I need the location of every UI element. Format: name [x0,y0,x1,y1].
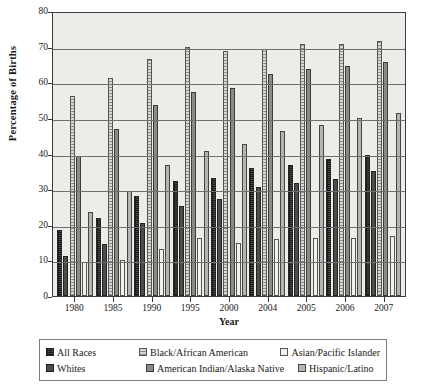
bar [351,238,356,296]
legend-label-asian-pacific-islander: Asian/Pacific Islander [291,347,380,358]
legend-item-all-races[interactable]: All Races [46,347,139,358]
bar [294,183,299,296]
x-tick-mark [345,297,346,302]
gridline [53,262,405,263]
bar [333,179,338,296]
bar [96,218,101,296]
bar [140,223,145,296]
y-axis-tick-80: 80 [22,7,48,16]
legend-item-hispanic-latino[interactable]: Hispanic/Latino [298,363,373,374]
bar-group-1980 [56,13,94,296]
legend-item-asian-pacific-islander[interactable]: Asian/Pacific Islander [280,347,380,358]
bar [390,236,395,296]
bar [396,113,401,296]
gridline [53,156,405,157]
bar [173,181,178,296]
legend-label-black-african-american: Black/African American [150,347,248,358]
bar [274,239,279,296]
chart-plot-area: Percentage of Births 01020304050607080 1… [0,0,426,330]
legend-item-whites[interactable]: Whites [46,363,146,374]
bar [102,244,107,296]
bar [319,125,324,296]
bar-group-1985 [94,13,132,296]
legend-label-american-indian-alaska-native: American Indian/Alaska Native [157,363,284,374]
legend-swatch-black-african-american-icon [139,348,147,356]
bar [223,51,228,296]
bar-group-2000 [210,13,248,296]
bar [191,92,196,296]
chart-legend: All Races Black/African American Asian/P… [39,339,387,381]
x-axis-tick-1995: 1995 [171,303,210,313]
bar-group-2005 [287,13,325,296]
y-axis-title: Percentage of Births [7,24,18,164]
y-tick-mark [48,190,52,191]
y-tick-mark [48,226,52,227]
bar [211,178,216,296]
bar-group-1995 [171,13,209,296]
legend-swatch-asian-pacific-islander-icon [280,348,288,356]
chart-page: Percentage of Births 01020304050607080 1… [0,0,426,391]
legend-swatch-hispanic-latino-icon [298,364,306,372]
bar [165,165,170,296]
y-tick-mark [48,155,52,156]
y-axis-tick-0: 0 [22,292,48,301]
bar [127,191,132,296]
bar [313,238,318,296]
gridline [53,120,405,121]
bar [300,44,305,296]
bar [377,41,382,296]
gridline [53,191,405,192]
y-tick-mark [48,119,52,120]
x-tick-mark [306,297,307,302]
bar [383,62,388,296]
bar [88,212,93,296]
bar [249,168,254,296]
bar [365,155,370,296]
y-tick-mark [48,261,52,262]
y-axis-tick-10: 10 [22,256,48,265]
legend-label-hispanic-latino: Hispanic/Latino [309,363,373,374]
legend-item-american-indian-alaska-native[interactable]: American Indian/Alaska Native [146,363,298,374]
legend-row-1: All Races Black/African American Asian/P… [46,344,380,360]
bar [371,171,376,296]
y-tick-mark [48,48,52,49]
plot-frame [52,12,406,297]
bar [179,206,184,296]
bar-group-2004 [248,13,286,296]
bar [82,262,87,296]
x-axis-tick-2000: 2000 [210,303,249,313]
y-tick-mark [48,83,52,84]
gridline [53,227,405,228]
bar [134,196,139,296]
bar [120,260,125,296]
bar [262,49,267,296]
legend-label-all-races: All Races [57,347,96,358]
bar [217,199,222,296]
bar [197,238,202,296]
x-axis-tick-labels: 198019851990199520002004200520062007 [52,303,406,313]
bar [153,105,158,296]
bar [339,44,344,296]
x-tick-mark [268,297,269,302]
x-axis-tick-2005: 2005 [287,303,326,313]
bar [204,151,209,296]
y-axis-tick-50: 50 [22,114,48,123]
y-axis-tick-30: 30 [22,185,48,194]
x-axis-tick-2004: 2004 [248,303,287,313]
bar [242,144,247,296]
bar-group-2007 [364,13,402,296]
bar [147,59,152,296]
x-tick-mark [152,297,153,302]
bar [256,187,261,296]
y-tick-mark [48,297,52,298]
x-tick-mark [229,297,230,302]
legend-item-black-african-american[interactable]: Black/African American [139,347,280,358]
gridline [53,49,405,50]
bar-group-2006 [325,13,363,296]
legend-swatch-american-indian-alaska-native-icon [146,364,154,372]
legend-label-whites: Whites [57,363,85,374]
legend-row-2: Whites American Indian/Alaska Native His… [46,360,380,376]
bar [236,243,241,296]
gridline [53,84,405,85]
y-axis-tick-70: 70 [22,43,48,52]
